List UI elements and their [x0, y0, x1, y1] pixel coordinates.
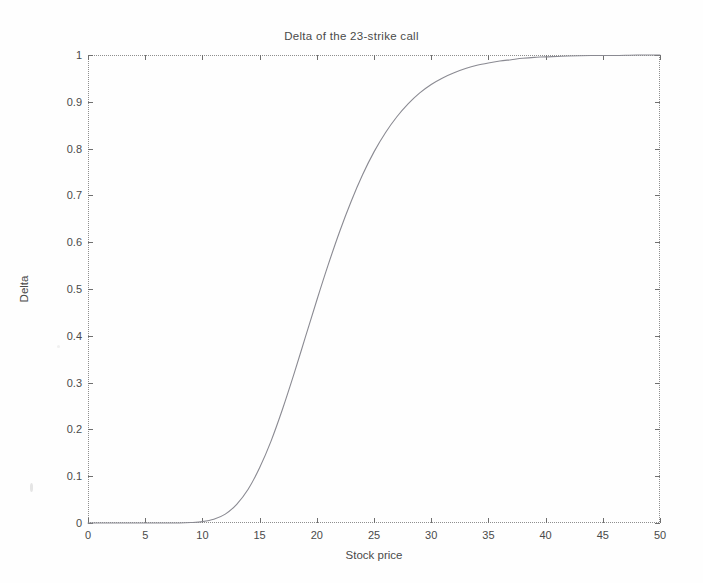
x-tick-mark: [660, 518, 661, 523]
y-tick-label: 0.3: [67, 377, 82, 389]
x-tick-label: 30: [425, 529, 437, 541]
x-tick-label: 15: [253, 529, 265, 541]
y-tick-mark: [655, 523, 660, 524]
x-tick-mark: [660, 55, 661, 60]
x-tick-label: 25: [368, 529, 380, 541]
figure-canvas: Delta of the 23-strike call 051015202530…: [0, 0, 703, 583]
plot-area: [88, 55, 660, 523]
y-tick-label: 0.6: [67, 236, 82, 248]
x-axis-label: Stock price: [88, 549, 660, 561]
y-tick-label: 0: [76, 517, 82, 529]
y-tick-label: 0.5: [67, 283, 82, 295]
x-tick-label: 0: [85, 529, 91, 541]
delta-curve-plot: [88, 55, 660, 523]
x-tick-label: 35: [482, 529, 494, 541]
x-tick-label: 40: [539, 529, 551, 541]
chart-title: Delta of the 23-strike call: [0, 30, 703, 42]
delta-curve-line: [88, 55, 660, 523]
y-tick-label: 0.7: [67, 189, 82, 201]
y-tick-label: 1: [76, 49, 82, 61]
y-tick-label: 0.4: [67, 330, 82, 342]
x-tick-label: 20: [311, 529, 323, 541]
x-tick-label: 45: [597, 529, 609, 541]
x-tick-label: 10: [196, 529, 208, 541]
y-tick-label: 0.1: [67, 470, 82, 482]
y-tick-label: 0.9: [67, 96, 82, 108]
x-tick-label: 5: [142, 529, 148, 541]
y-tick-label: 0.8: [67, 143, 82, 155]
x-tick-label: 50: [654, 529, 666, 541]
y-axis-label: Delta: [18, 276, 30, 303]
y-tick-label: 0.2: [67, 423, 82, 435]
scan-artifact: [57, 345, 60, 348]
scan-artifact: [30, 483, 33, 492]
